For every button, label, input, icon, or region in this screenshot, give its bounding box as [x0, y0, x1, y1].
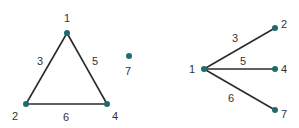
triangle-graph: 3561247	[12, 12, 132, 123]
node-1	[64, 30, 70, 36]
node-label: 4	[281, 63, 287, 75]
node-label: 4	[112, 110, 118, 122]
node-label: 7	[125, 65, 131, 77]
node-label: 1	[64, 12, 70, 24]
node-4	[104, 101, 110, 107]
node-4	[272, 66, 278, 72]
star-graph: 3561247	[189, 18, 287, 120]
edge-1-4	[67, 33, 107, 104]
node-label: 2	[12, 110, 18, 122]
node-2	[272, 25, 278, 31]
node-1	[201, 66, 207, 72]
edge-weight-label: 3	[232, 32, 238, 44]
node-2	[23, 101, 29, 107]
edge-weight-label: 3	[37, 55, 43, 67]
edge-weight-label: 6	[228, 92, 234, 104]
node-label: 1	[189, 63, 195, 75]
edge-weight-label: 5	[92, 55, 98, 67]
edge-weight-label: 6	[63, 111, 69, 123]
edge-weight-label: 5	[240, 55, 246, 67]
node-7	[126, 53, 132, 59]
node-label: 2	[281, 18, 287, 30]
graph-diagram: 35612473561247	[0, 0, 299, 128]
node-7	[272, 107, 278, 113]
edge-1-7	[204, 69, 275, 110]
edge-1-2	[26, 33, 67, 104]
node-label: 7	[281, 108, 287, 120]
